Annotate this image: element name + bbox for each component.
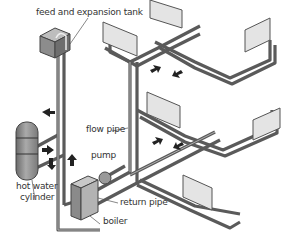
hot-water-cylinder bbox=[16, 122, 38, 180]
arrow-icon bbox=[42, 145, 54, 155]
radiator-2 bbox=[150, 0, 182, 28]
pump bbox=[99, 172, 111, 184]
label-flow-pipe: flow pipe bbox=[86, 124, 125, 134]
arrow-icon bbox=[152, 137, 163, 145]
label-pump: pump bbox=[91, 150, 116, 160]
arrow-icon bbox=[67, 154, 77, 166]
radiator-3 bbox=[245, 18, 270, 52]
label-cylinder: cylinder bbox=[20, 192, 54, 202]
label-feed-expansion-tank: feed and expansion tank bbox=[36, 7, 143, 17]
label-boiler: boiler bbox=[103, 216, 127, 226]
arrow-icon bbox=[150, 65, 161, 73]
arrow-icon bbox=[42, 108, 55, 117]
radiator-6 bbox=[183, 175, 212, 210]
boiler bbox=[71, 176, 98, 220]
label-hot-water: hot water bbox=[16, 181, 57, 191]
arrow-icon bbox=[172, 70, 183, 78]
label-return-pipe: return pipe bbox=[120, 197, 168, 207]
